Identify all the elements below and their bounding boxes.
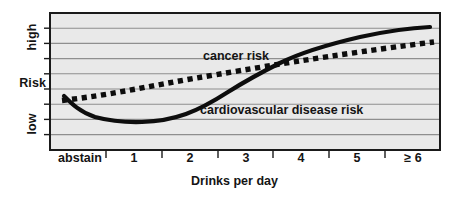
x-axis-tick-label-2: 2 [162, 152, 218, 165]
x-axis-tick-label-4: 4 [273, 152, 329, 165]
x-axis-tick-label-6-or-more: ≥ 6 [385, 152, 441, 165]
x-axis-tick-label-5: 5 [329, 152, 385, 165]
series-annotation-cardiovascular-disease-risk: cardiovascular disease risk [200, 104, 363, 117]
y-axis-label-risk: Risk [6, 77, 46, 91]
series-annotation-cancer-risk: cancer risk [203, 50, 269, 63]
y-axis-label-high: high [26, 17, 40, 57]
x-axis-tick-label-3: 3 [218, 152, 274, 165]
x-axis-tick-label-1: 1 [106, 152, 162, 165]
x-axis-tick-label-abstain: abstain [52, 152, 108, 165]
y-axis-label-low: low [26, 104, 40, 144]
risk-chart-figure: high Risk low abstain 1 2 3 4 5 ≥ 6 Drin… [0, 0, 469, 198]
x-axis-title: Drinks per day [0, 175, 469, 188]
chart-canvas [0, 0, 469, 198]
